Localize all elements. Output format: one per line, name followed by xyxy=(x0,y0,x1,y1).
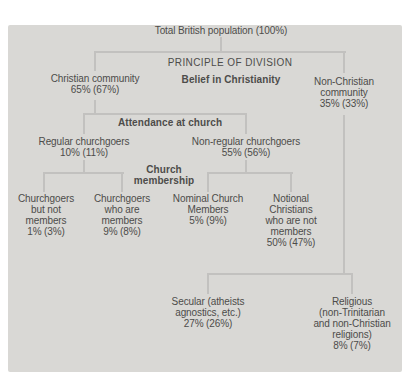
node-non-regular-churchgoers-name: Non-regular churchgoers xyxy=(192,136,300,147)
node-nominal-church-members-line2: Members xyxy=(173,204,243,215)
node-churchgoers-not-members-value: 1% (3%) xyxy=(18,226,74,237)
connector-membership-split-left xyxy=(43,172,124,174)
connector-nonchristian-long xyxy=(343,115,345,275)
node-total-population: Total British population (100%) xyxy=(155,25,288,36)
connector-notional-stub xyxy=(290,172,292,192)
node-total-population-label: Total British population (100%) xyxy=(155,25,288,36)
figure-canvas: Total British population (100%) PRINCIPL… xyxy=(0,0,402,377)
node-religious: Religious (non-Trinitarian and non-Chris… xyxy=(313,296,390,351)
node-secular: Secular (atheists agnostics, etc.) 27% (… xyxy=(172,296,245,329)
connector-total-stub xyxy=(220,37,222,51)
connector-christian-stub xyxy=(94,51,96,71)
node-churchgoers-not-members: Churchgoers but not members 1% (3%) xyxy=(18,193,74,237)
node-churchgoers-members: Churchgoers who are members 9% (8%) xyxy=(94,193,150,237)
node-secular-line2: agnostics, etc.) xyxy=(172,307,245,318)
node-non-regular-churchgoers-value: 55% (56%) xyxy=(192,147,300,158)
node-churchgoers-members-line3: members xyxy=(94,215,150,226)
connector-regular-down xyxy=(83,160,85,172)
connector-nonregular-down xyxy=(245,160,247,172)
node-churchgoers-not-members-line3: members xyxy=(18,215,74,226)
node-non-christian-community-name2: community xyxy=(314,87,374,98)
connector-religious-stub xyxy=(351,273,353,294)
node-regular-churchgoers-value: 10% (11%) xyxy=(39,147,130,158)
node-christian-community: Christian community 65% (67%) xyxy=(51,73,140,95)
node-secular-line1: Secular (atheists xyxy=(172,296,245,307)
label-principle-of-division-text: PRINCIPLE OF DIVISION xyxy=(168,57,293,68)
node-regular-churchgoers: Regular churchgoers 10% (11%) xyxy=(39,136,130,158)
node-non-regular-churchgoers: Non-regular churchgoers 55% (56%) xyxy=(192,136,300,158)
connector-nonchristian-stub xyxy=(343,51,345,73)
label-belief-in-christianity: Belief in Christianity xyxy=(182,74,281,85)
node-nominal-church-members-value: 5% (9%) xyxy=(173,215,243,226)
node-christian-community-name: Christian community xyxy=(51,73,140,84)
connector-attendance-split xyxy=(83,113,247,115)
label-church-membership-text1: Church xyxy=(134,164,194,175)
node-churchgoers-not-members-line1: Churchgoers xyxy=(18,193,74,204)
node-non-christian-community-name1: Non-Christian xyxy=(314,76,374,87)
label-belief-in-christianity-text: Belief in Christianity xyxy=(182,74,281,85)
node-nominal-church-members-line1: Nominal Church xyxy=(173,193,243,204)
node-religious-line4: religions) xyxy=(313,329,390,340)
node-religious-value: 8% (7%) xyxy=(313,340,390,351)
node-churchgoers-members-line2: who are xyxy=(94,204,150,215)
node-notional-christians-value: 50% (47%) xyxy=(265,237,316,248)
connector-notmembers-stub xyxy=(43,172,45,192)
node-christian-community-value: 65% (67%) xyxy=(51,84,140,95)
connector-regular-stub xyxy=(83,113,85,134)
label-attendance-at-church-text: Attendance at church xyxy=(118,117,222,128)
node-notional-christians: Notional Christians who are not members … xyxy=(265,193,316,248)
connector-nominal-stub xyxy=(207,172,209,192)
node-nominal-church-members: Nominal Church Members 5% (9%) xyxy=(173,193,243,226)
node-non-christian-community-value: 35% (33%) xyxy=(314,98,374,109)
node-notional-christians-line2: Christians xyxy=(265,204,316,215)
node-regular-churchgoers-name: Regular churchgoers xyxy=(39,136,130,147)
connector-members-stub xyxy=(121,172,123,192)
label-attendance-at-church: Attendance at church xyxy=(118,117,222,128)
node-notional-christians-line4: members xyxy=(265,226,316,237)
node-churchgoers-members-line1: Churchgoers xyxy=(94,193,150,204)
node-notional-christians-line1: Notional xyxy=(265,193,316,204)
node-religious-line3: and non-Christian xyxy=(313,318,390,329)
node-secular-value: 27% (26%) xyxy=(172,318,245,329)
node-churchgoers-not-members-line2: but not xyxy=(18,204,74,215)
connector-christian-down xyxy=(94,100,96,113)
node-non-christian-community: Non-Christian community 35% (33%) xyxy=(314,76,374,109)
node-churchgoers-members-value: 9% (8%) xyxy=(94,226,150,237)
label-church-membership: Church membership xyxy=(134,164,194,186)
node-religious-line1: Religious xyxy=(313,296,390,307)
connector-belief-split xyxy=(94,51,346,53)
label-principle-of-division: PRINCIPLE OF DIVISION xyxy=(168,57,293,68)
connector-secular-split xyxy=(207,273,353,275)
label-church-membership-text2: membership xyxy=(134,175,194,186)
connector-nonregular-stub xyxy=(245,113,247,134)
connector-membership-split-right xyxy=(207,172,293,174)
connector-secular-stub xyxy=(207,273,209,294)
node-notional-christians-line3: who are not xyxy=(265,215,316,226)
node-religious-line2: (non-Trinitarian xyxy=(313,307,390,318)
